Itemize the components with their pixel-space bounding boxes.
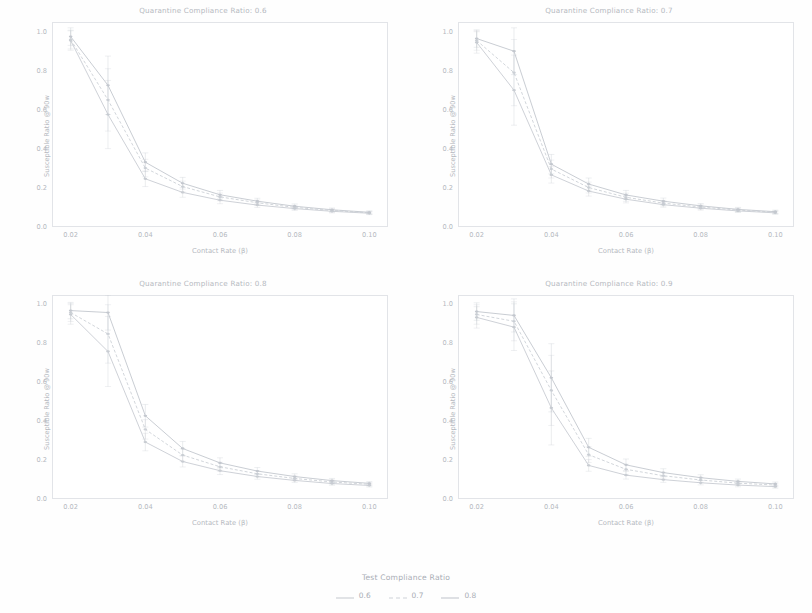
y-tick-label: 0.4	[443, 417, 454, 425]
data-point	[367, 211, 371, 213]
series-line	[71, 310, 370, 483]
data-series	[474, 28, 779, 213]
data-point	[661, 200, 665, 202]
data-point	[475, 310, 479, 312]
data-point	[699, 205, 703, 207]
x-tick-label: 0.08	[287, 231, 302, 239]
x-tick-label: 0.10	[362, 503, 377, 511]
data-series	[474, 32, 779, 214]
data-point	[143, 161, 147, 163]
legend-items: 0.60.70.8	[0, 586, 812, 605]
y-tick-label: 1.0	[37, 28, 48, 36]
data-point	[624, 463, 628, 465]
legend-label: 0.6	[359, 591, 371, 600]
data-point	[143, 428, 147, 430]
figure-canvas: Quarantine Compliance Ratio: 0.6 Suscept…	[0, 0, 812, 613]
y-tick-label: 0.8	[443, 67, 454, 75]
y-tick-label: 0.0	[443, 223, 454, 231]
data-point	[330, 209, 334, 211]
x-axis-label: Contact Rate (β)	[458, 247, 794, 255]
data-point	[330, 479, 334, 481]
series-line	[71, 40, 370, 213]
data-point	[255, 200, 259, 202]
data-series	[474, 31, 779, 214]
x-axis-label: Contact Rate (β)	[52, 519, 388, 527]
y-tick-label: 0.6	[37, 106, 48, 114]
data-point	[255, 469, 259, 471]
data-point	[661, 471, 665, 473]
data-point	[106, 84, 110, 86]
series-canvas	[458, 295, 794, 500]
data-point	[512, 314, 516, 316]
x-tick-label: 0.04	[544, 503, 559, 511]
legend-item[interactable]: 0.8	[441, 586, 476, 605]
panel-title: Quarantine Compliance Ratio: 0.7	[406, 6, 812, 15]
data-point	[367, 482, 371, 484]
panel-title: Quarantine Compliance Ratio: 0.6	[0, 6, 406, 15]
y-tick-label: 0.6	[37, 378, 48, 386]
data-series	[474, 298, 779, 485]
data-point	[293, 475, 297, 477]
plot-area: 0.00.20.40.60.81.00.020.040.060.080.10	[52, 22, 388, 227]
y-tick-label: 0.4	[443, 145, 454, 153]
x-tick-label: 0.02	[63, 503, 78, 511]
data-series	[68, 30, 373, 214]
legend-title: Test Compliance Ratio	[0, 573, 812, 582]
data-point	[106, 311, 110, 313]
data-point	[293, 205, 297, 207]
series-line	[477, 39, 776, 212]
x-tick-label: 0.04	[544, 231, 559, 239]
panel-title: Quarantine Compliance Ratio: 0.8	[0, 279, 406, 288]
data-point	[512, 50, 516, 52]
x-tick-label: 0.04	[138, 503, 153, 511]
series-line	[477, 311, 776, 483]
data-point	[106, 332, 110, 334]
data-point	[475, 37, 479, 39]
x-tick-label: 0.02	[469, 503, 484, 511]
figure-legend: Test Compliance Ratio 0.60.70.8	[0, 573, 812, 605]
y-tick-label: 1.0	[443, 300, 454, 308]
series-line	[477, 42, 776, 212]
data-point	[143, 414, 147, 416]
y-tick-label: 1.0	[37, 300, 48, 308]
plot-area: 0.00.20.40.60.81.00.020.040.060.080.10	[458, 295, 794, 500]
y-tick-label: 0.8	[443, 339, 454, 347]
x-tick-label: 0.10	[362, 231, 377, 239]
data-point	[143, 178, 147, 180]
x-axis-label: Contact Rate (β)	[52, 247, 388, 255]
data-point	[736, 480, 740, 482]
data-series	[68, 28, 373, 214]
data-point	[181, 182, 185, 184]
data-point	[218, 194, 222, 196]
x-tick-label: 0.02	[469, 231, 484, 239]
data-point	[587, 183, 591, 185]
series-canvas	[52, 22, 388, 227]
plot-area: 0.00.20.40.60.81.00.020.040.060.080.10	[458, 22, 794, 227]
y-tick-label: 0.6	[443, 378, 454, 386]
legend-label: 0.7	[412, 591, 424, 600]
data-point	[587, 446, 591, 448]
y-tick-label: 0.2	[37, 184, 48, 192]
x-tick-label: 0.02	[63, 231, 78, 239]
subplot-panel: Quarantine Compliance Ratio: 0.8 Suscept…	[0, 273, 406, 546]
legend-line-swatch	[389, 586, 407, 605]
y-tick-label: 1.0	[443, 28, 454, 36]
data-point	[699, 476, 703, 478]
x-tick-label: 0.08	[287, 503, 302, 511]
data-point	[549, 376, 553, 378]
legend-item[interactable]: 0.7	[389, 586, 424, 605]
y-tick-label: 0.4	[37, 145, 48, 153]
subplot-panel: Quarantine Compliance Ratio: 0.6 Suscept…	[0, 0, 406, 273]
x-tick-label: 0.06	[213, 231, 228, 239]
legend-item[interactable]: 0.6	[336, 586, 371, 605]
y-tick-label: 0.2	[443, 184, 454, 192]
data-series	[68, 295, 373, 485]
y-tick-label: 0.2	[37, 456, 48, 464]
y-tick-label: 0.6	[443, 106, 454, 114]
legend-label: 0.8	[464, 591, 476, 600]
data-point	[587, 464, 591, 466]
legend-line-swatch	[336, 586, 354, 605]
data-series	[68, 31, 373, 215]
data-point	[181, 447, 185, 449]
x-tick-label: 0.06	[619, 231, 634, 239]
